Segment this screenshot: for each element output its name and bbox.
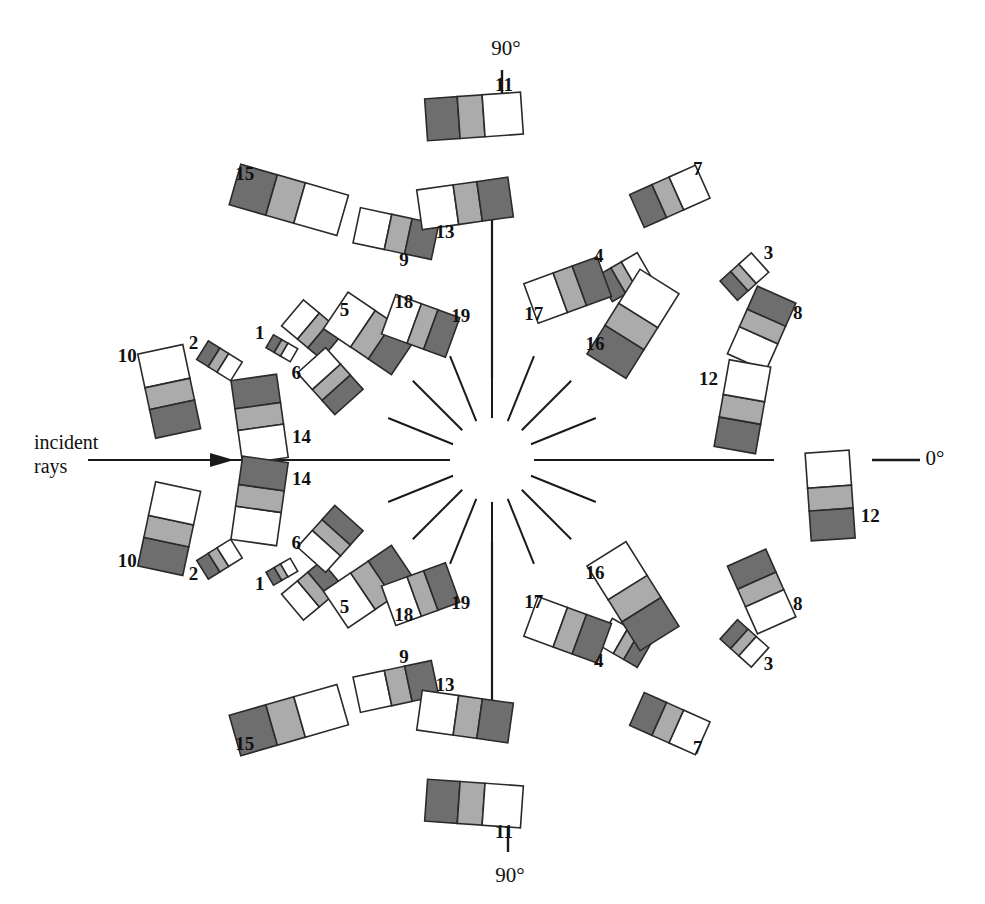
bar-label: 10 [118,345,137,366]
bar-label: 11 [495,74,513,95]
center-spoke [413,381,463,431]
bar-segment [425,97,460,141]
scattering-bar [714,360,771,454]
bar-label: 18 [394,291,413,312]
bar-label: 6 [291,362,301,383]
bar-label: 1 [255,573,265,594]
zero-degree-label: 0° [926,446,945,470]
scattering-bar [138,482,201,576]
bar-label: 6 [291,532,301,553]
incident-rays-label-line2: rays [34,455,68,478]
bar-label: 14 [292,468,312,489]
center-spoke [531,476,596,502]
center-spoke [522,381,572,431]
bar-label: 4 [594,245,604,266]
bar-label: 5 [340,596,350,617]
scattering-bar [805,450,855,541]
center-spoke [508,499,534,564]
bar-label: 13 [436,674,455,695]
bar-label: 8 [793,593,803,614]
scattering-diagram-figure: 1215596181910141113734171681212121559618… [0,0,985,904]
scattering-bar [425,92,524,141]
bar-segment [417,690,459,735]
scattering-bar [231,456,288,546]
bar-label: 1 [255,322,265,343]
scattering-bar [417,690,514,742]
bar-label: 2 [189,332,199,353]
bar-label: 9 [399,646,409,667]
bar-segment [482,92,523,137]
bar-segment [425,779,460,823]
bar-label: 15 [235,163,254,184]
scattering-bar [417,177,514,229]
bar-label: 15 [235,733,254,754]
bar-label: 12 [861,505,880,526]
bar-label: 13 [436,221,455,242]
bar-label: 16 [585,562,604,583]
bar-segment [805,450,851,488]
bar-label: 8 [793,302,803,323]
center-spoke [522,490,572,540]
bar-label: 17 [524,303,544,324]
center-spoke [388,418,453,444]
bar-label: 19 [451,592,470,613]
scattering-bar [266,558,298,585]
bar-label: 2 [189,563,199,584]
bar-segment [477,699,514,743]
bar-label: 11 [495,821,513,842]
scattering-bar [197,341,243,381]
ninety-degree-label-bottom: 90° [495,863,524,887]
bar-segment [809,508,855,541]
bar-label: 3 [764,242,774,263]
bar-label: 7 [693,737,703,758]
center-spoke [450,356,476,421]
scattering-bar [297,505,363,572]
bar-label: 7 [693,158,703,179]
bar-label: 18 [394,604,413,625]
bar-label: 5 [340,299,350,320]
center-spoke [413,490,463,540]
bar-label: 17 [524,591,544,612]
diagram-canvas: 1215596181910141113734171681212121559618… [0,0,985,904]
center-spoke [388,476,453,502]
scattering-bar [297,348,363,415]
center-spoke [508,356,534,421]
scattering-bar [197,539,243,579]
bar-segment [477,177,514,221]
bar-label: 12 [699,368,718,389]
bar-label: 4 [594,650,604,671]
bar-label: 16 [585,333,604,354]
center-spoke [450,499,476,564]
bar-segment [723,360,770,402]
bar-segment [808,485,853,511]
scattering-bar [138,345,201,439]
scattering-bar [266,335,298,362]
bar-segment [457,95,485,139]
bar-label: 9 [399,249,409,270]
incident-ray-arrowhead [210,453,234,467]
center-spoke [531,418,596,444]
bar-label: 10 [118,550,137,571]
bar-label: 14 [292,426,312,447]
bar-segment [457,782,485,826]
bar-label: 19 [451,305,470,326]
bar-segment [239,456,289,491]
incident-rays-label-line1: incident [34,431,99,453]
bar-label: 3 [764,653,774,674]
ninety-degree-label-top: 90° [491,36,520,60]
scattering-bar [231,374,288,464]
